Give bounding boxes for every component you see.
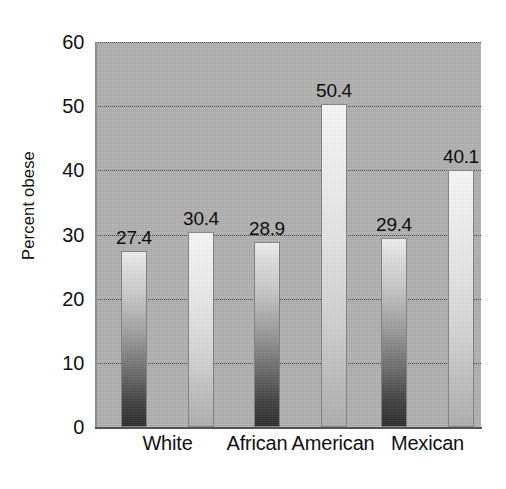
obesity-bar-chart: Percent obese 0102030405060 27.430.428.9… xyxy=(0,0,506,489)
bar-african-american-0 xyxy=(254,242,280,427)
gridline-60 xyxy=(96,42,481,43)
bar-value-label: 40.1 xyxy=(443,147,479,166)
x-category-label-white: White xyxy=(142,432,192,455)
bar-value-label: 30.4 xyxy=(183,209,219,228)
plot-area: 27.430.428.950.429.440.1 xyxy=(96,42,481,427)
y-tick-label-40: 40 xyxy=(62,160,84,180)
y-axis-tick-labels: 0102030405060 xyxy=(44,0,90,489)
gridline-40 xyxy=(96,170,481,171)
y-axis-line xyxy=(95,42,97,428)
x-category-label-mexican: Mexican xyxy=(391,432,464,455)
bar-white-0 xyxy=(121,251,147,427)
gridline-50 xyxy=(96,106,481,107)
x-axis-line xyxy=(95,427,482,429)
bar-value-label: 29.4 xyxy=(376,215,412,234)
bar-white-1 xyxy=(188,232,214,427)
y-tick-label-20: 20 xyxy=(62,289,84,309)
y-tick-label-50: 50 xyxy=(62,96,84,116)
y-axis-title: Percent obese xyxy=(19,116,38,296)
x-category-label-african-american: African American xyxy=(227,432,375,455)
bar-african-american-1 xyxy=(321,104,347,427)
gridline-30 xyxy=(96,235,481,236)
bar-mexican-0 xyxy=(381,238,407,427)
y-tick-label-60: 60 xyxy=(62,32,84,52)
bar-value-label: 28.9 xyxy=(249,219,285,238)
bar-mexican-1 xyxy=(448,170,474,427)
gridline-20 xyxy=(96,299,481,300)
bar-value-label: 27.4 xyxy=(116,228,152,247)
y-tick-label-10: 10 xyxy=(62,353,84,373)
x-axis-category-labels: WhiteAfrican AmericanMexican xyxy=(0,432,506,476)
bar-value-label: 50.4 xyxy=(316,81,352,100)
y-tick-label-30: 30 xyxy=(62,225,84,245)
gridline-10 xyxy=(96,363,481,364)
